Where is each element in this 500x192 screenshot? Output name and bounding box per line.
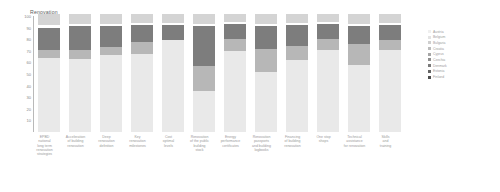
bar-column[interactable] <box>379 14 401 132</box>
bar-segment <box>317 24 339 39</box>
legend-label: Bulgaria <box>433 41 445 45</box>
bar-segment <box>131 14 153 23</box>
bar-segment <box>286 14 308 23</box>
legend-swatch-icon <box>428 47 431 50</box>
bar-segment <box>100 55 122 132</box>
bar-segment <box>379 25 401 40</box>
legend-item[interactable]: Austria <box>428 29 498 34</box>
y-tick-label: 10 <box>26 118 31 123</box>
y-axis-tick-labels: 100908070605040302010 <box>14 16 31 132</box>
legend-item[interactable]: Bulgaria <box>428 40 498 45</box>
bar-stack <box>255 14 277 132</box>
bar-column[interactable] <box>317 14 339 132</box>
bar-segment <box>255 26 277 48</box>
legend-label: Denmark <box>433 64 447 68</box>
bar-segment <box>379 14 401 23</box>
x-axis-label: Deep renovation definition <box>92 135 122 148</box>
legend-item[interactable]: Estonia <box>428 69 498 74</box>
bar-stack <box>379 14 401 132</box>
bar-segment <box>348 65 370 132</box>
legend-swatch-icon <box>428 58 431 61</box>
bar-segment <box>379 40 401 49</box>
bar-segment <box>69 14 91 24</box>
bar-column[interactable] <box>286 14 308 132</box>
bar-stack <box>224 14 246 132</box>
legend-item[interactable]: Belgium <box>428 35 498 40</box>
legend-item[interactable]: Finland <box>428 75 498 80</box>
bar-segment <box>100 47 122 55</box>
y-tick-label: 80 <box>26 37 31 42</box>
y-tick-label: 60 <box>26 60 31 65</box>
x-axis-label: Financing of building renovation <box>278 135 308 148</box>
y-tick-label: 50 <box>26 72 31 77</box>
bar-stack <box>317 14 339 132</box>
bar-segment <box>131 42 153 55</box>
legend-swatch-icon <box>428 70 431 73</box>
bar-segment <box>193 66 215 92</box>
y-tick-label: 70 <box>26 48 31 53</box>
legend-swatch-icon <box>428 64 431 67</box>
bar-segment <box>348 26 370 43</box>
bar-segment <box>162 40 184 132</box>
bar-column[interactable] <box>162 14 184 132</box>
legend-label: Croatia <box>433 47 444 51</box>
bar-stack <box>100 14 122 132</box>
bar-column[interactable] <box>69 14 91 132</box>
bar-stack <box>162 14 184 132</box>
legend-label: Belgium <box>433 35 445 39</box>
x-axis-category-labels: EPBD national long term renovation strat… <box>33 135 405 190</box>
bar-stack <box>38 14 60 132</box>
legend-item[interactable]: Czechia <box>428 57 498 62</box>
bar-segment <box>348 14 370 24</box>
bar-column[interactable] <box>38 14 60 132</box>
legend-label: Finland <box>433 75 444 79</box>
x-axis-label: Key renovation milestones <box>123 135 153 148</box>
bar-segment <box>193 91 215 132</box>
bar-segment <box>100 26 122 47</box>
bar-segment <box>162 14 184 23</box>
legend-swatch-icon <box>428 41 431 44</box>
bar-segment <box>255 49 277 72</box>
bar-segment <box>255 72 277 132</box>
legend-item[interactable]: Cyprus <box>428 52 498 57</box>
bar-segment <box>224 14 246 22</box>
bar-segment <box>286 25 308 46</box>
x-axis-label: One stop shops <box>309 135 339 144</box>
bar-segment <box>38 14 60 26</box>
bar-segment <box>69 50 91 59</box>
bar-column[interactable] <box>255 14 277 132</box>
x-axis-label: Acceleration of building renovation <box>61 135 91 148</box>
bar-segment <box>317 50 339 132</box>
bar-column[interactable] <box>224 14 246 132</box>
x-axis-label: EPBD national long term renovation strat… <box>30 135 60 156</box>
legend-label: Austria <box>433 30 444 34</box>
renovation-stacked-bar-chart: Renovation 100908070605040302010 EPBD na… <box>0 0 500 192</box>
y-tick-label: 90 <box>26 25 31 30</box>
bar-segment <box>193 14 215 24</box>
legend-label: Estonia <box>433 69 444 73</box>
bar-segment <box>255 14 277 24</box>
bar-column[interactable] <box>348 14 370 132</box>
bar-segment <box>224 51 246 132</box>
bar-stack <box>131 14 153 132</box>
bar-segment <box>38 50 60 58</box>
bar-column[interactable] <box>100 14 122 132</box>
x-axis-label: Renovation of the public building stock <box>185 135 215 152</box>
legend-item[interactable]: Croatia <box>428 46 498 51</box>
legend-item[interactable]: Denmark <box>428 63 498 68</box>
y-tick-label: 40 <box>26 83 31 88</box>
chart-legend: AustriaBelgiumBulgariaCroatiaCyprusCzech… <box>428 29 498 80</box>
bar-segment <box>317 39 339 49</box>
bar-column[interactable] <box>131 14 153 132</box>
bar-segment <box>69 26 91 49</box>
bar-column[interactable] <box>193 14 215 132</box>
y-tick-label: 30 <box>26 95 31 100</box>
bar-segment <box>317 14 339 22</box>
x-axis-label: Renovation passports and building logboo… <box>247 135 277 152</box>
legend-swatch-icon <box>428 30 431 33</box>
x-axis-label: Skills and training <box>371 135 401 148</box>
bar-segment <box>348 44 370 65</box>
legend-swatch-icon <box>428 53 431 56</box>
bar-segment <box>286 46 308 60</box>
y-tick-label: 100 <box>24 14 31 19</box>
